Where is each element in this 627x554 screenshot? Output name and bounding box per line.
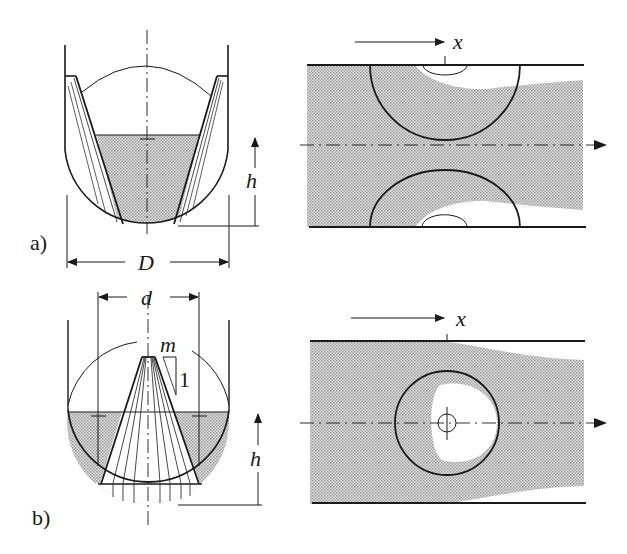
sphere-arc <box>82 66 211 96</box>
flow-direction-arrow-icon <box>594 140 607 150</box>
panel-a-label: a) <box>30 230 47 255</box>
sphere-upper-arc-b <box>68 342 137 405</box>
slope-1-label: 1 <box>179 367 190 392</box>
panel-a-section: h D a) <box>30 30 259 275</box>
slope-m-label: m <box>160 332 176 357</box>
flow-shading <box>307 65 583 227</box>
panel-b-section: m 1 d h b) <box>32 285 262 530</box>
x-label-a: x <box>452 29 463 54</box>
panel-b-label: b) <box>32 505 50 530</box>
flow-direction-arrow-icon-b <box>594 418 607 428</box>
panel-a-plan: x <box>300 29 607 227</box>
x-label-b: x <box>455 306 466 331</box>
d-label: d <box>141 285 153 310</box>
D-label: D <box>137 250 154 275</box>
h-label-b: h <box>250 446 261 471</box>
hydraulics-figure: h D a) x <box>0 0 627 554</box>
panel-b-plan: x <box>300 306 607 504</box>
h-label-a: h <box>246 168 257 193</box>
